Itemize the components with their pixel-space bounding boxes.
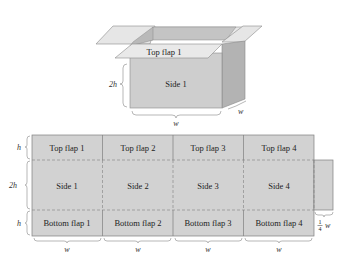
tab-label-den: 4 (319, 226, 322, 232)
net-bottom-flap-2: Bottom flap 2 (114, 218, 161, 228)
net-top-flap-4: Top flap 4 (262, 143, 298, 153)
depth-label-3d: w (238, 107, 244, 116)
tab-label-var: w (325, 221, 331, 230)
row-label-side: 2h (9, 181, 17, 190)
box-3d: Top flap 1 Side 1 2h w w (96, 26, 262, 128)
row-label-bottom: h (17, 219, 21, 228)
side-face (222, 41, 245, 108)
net-side-1: Side 1 (56, 181, 78, 191)
width-label-3d: w (173, 119, 179, 128)
col-label-1: w (64, 245, 70, 254)
net-bottom-flap-4: Bottom flap 4 (255, 218, 303, 228)
net-side-2: Side 2 (127, 181, 149, 191)
inner-back-wall (146, 27, 236, 40)
box-diagram: Top flap 1 Side 1 2h w w Top flap 1 (0, 0, 341, 255)
net-side-3: Side 3 (197, 181, 219, 191)
net-top-flap-3: Top flap 3 (191, 143, 226, 153)
col-label-4: w (276, 245, 282, 254)
col-label-3: w (205, 245, 211, 254)
col-brace-4 (245, 238, 312, 243)
tab-label-num: 1 (319, 219, 322, 225)
tab-brace (315, 212, 333, 217)
height-label-3d: 2h (109, 80, 117, 89)
net-side-4: Side 4 (268, 181, 290, 191)
top-flap-1-3d-label: Top flap 1 (147, 47, 182, 57)
net-bottom-flap-3: Bottom flap 3 (184, 218, 231, 228)
net-bottom-flap-1: Bottom flap 1 (43, 218, 90, 228)
height-brace (120, 64, 127, 107)
row-brace-bottom (25, 211, 30, 235)
row-label-top: h (17, 143, 21, 152)
row-brace-side (25, 161, 30, 209)
col-label-2: w (135, 245, 141, 254)
width-brace (132, 111, 221, 118)
col-brace-1 (34, 238, 101, 243)
box-net: Top flap 1 Top flap 2 Top flap 3 Top fla… (9, 135, 333, 254)
col-brace-3 (175, 238, 242, 243)
glue-tab (314, 160, 333, 210)
net-top-flap-2: Top flap 2 (121, 143, 156, 153)
net-top-flap-1: Top flap 1 (50, 143, 85, 153)
side-1-3d-label: Side 1 (165, 79, 187, 89)
row-brace-top (25, 136, 30, 159)
col-brace-2 (104, 238, 171, 243)
